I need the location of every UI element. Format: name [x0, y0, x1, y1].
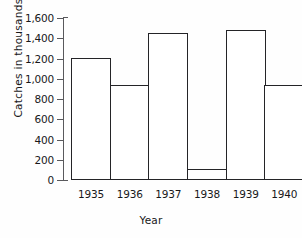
y-axis-tick-label: 1,000	[25, 73, 54, 85]
x-axis-tick-label: 1940	[271, 188, 297, 200]
y-axis-tick-label: 0	[48, 174, 54, 186]
y-axis-tick-label: 1,400	[25, 32, 54, 44]
y-axis-tick-label: 1,600	[25, 12, 54, 24]
bar	[187, 169, 227, 180]
y-axis-tick-label: 400	[35, 134, 54, 146]
y-axis-tick-label: 600	[35, 113, 54, 125]
bar	[71, 58, 111, 180]
plot-area	[63, 18, 295, 180]
y-axis-tick-label: 200	[35, 154, 54, 166]
x-axis-tick-label: 1939	[233, 188, 259, 200]
bar	[226, 30, 266, 180]
y-axis-tick	[57, 180, 63, 181]
x-axis-tick-label: 1937	[155, 188, 181, 200]
bar	[264, 85, 302, 180]
x-axis-tick-label: 1936	[117, 188, 143, 200]
bar-chart: 02004006008001,0001,2001,4001,600 193519…	[0, 0, 302, 238]
y-axis-bottom-cap	[63, 180, 68, 181]
y-axis-title: Catches in thousands	[12, 0, 24, 128]
x-axis-tick-label: 1938	[194, 188, 220, 200]
bar	[110, 85, 150, 180]
x-axis-tick-label: 1935	[78, 188, 104, 200]
x-axis-title: Year	[0, 214, 302, 226]
y-axis-tick-label: 1,200	[25, 53, 54, 65]
bar	[148, 33, 188, 180]
y-axis-tick-label: 800	[35, 93, 54, 105]
